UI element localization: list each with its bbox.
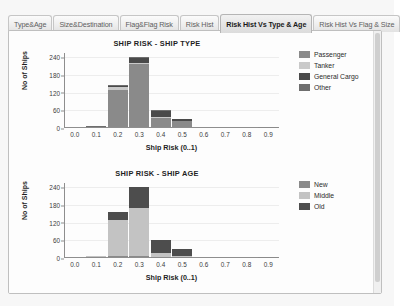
bar-segment-middle — [129, 208, 149, 256]
legend-swatch-icon — [299, 73, 310, 80]
y-tick-mark — [61, 110, 64, 111]
x-axis-tick: 0.7 — [221, 261, 230, 268]
bar-segment-passenger — [108, 90, 128, 127]
y-tick-mark — [61, 128, 64, 129]
y-axis-tick: 0 — [56, 255, 60, 262]
y-axis-tick: 0 — [56, 125, 60, 132]
x-axis-tick: 0.2 — [113, 261, 122, 268]
x-axis-tick: 0.9 — [264, 131, 273, 138]
bar-segment-old — [108, 212, 128, 220]
bar-segment-old — [151, 240, 171, 253]
tab-label: Risk Hist — [186, 20, 213, 29]
legend-label: Tanker — [314, 62, 334, 69]
chart-ship-risk-ship-age: SHIP RISK - SHIP AGE No of Ships 0601201… — [9, 163, 375, 291]
y-axis-tick: 180 — [49, 202, 60, 209]
x-axis-tick: 0.9 — [264, 261, 273, 268]
gridline — [65, 93, 279, 94]
x-axis-tick: 0.0 — [70, 131, 79, 138]
x-axis-tick: 0.7 — [221, 131, 230, 138]
legend-swatch-icon — [299, 84, 310, 91]
x-axis-label: Ship Risk (0..1) — [64, 143, 279, 152]
x-axis-tick: 0.8 — [242, 131, 251, 138]
x-axis-tick: 0.1 — [92, 131, 101, 138]
legend-item-general-cargo[interactable]: General Cargo — [299, 73, 359, 80]
tab-label: Flag&Flag Risk — [126, 20, 173, 29]
tab-risk-hist-vs-type-age[interactable]: Risk Hist Vs Type & Age — [220, 14, 312, 33]
y-axis-line — [64, 183, 65, 258]
plot-area: 0601201802400.00.10.20.30.40.50.60.70.80… — [64, 183, 279, 258]
legend-label: General Cargo — [314, 73, 359, 80]
bar-0.2 — [108, 212, 128, 257]
chart-legend: PassengerTankerGeneral CargoOther — [299, 51, 359, 95]
bar-0.4 — [151, 240, 171, 257]
tab-bar: Type&AgeSize&DestinationFlag&Flag RiskRi… — [8, 14, 390, 31]
bar-segment-new — [129, 256, 149, 257]
x-axis-label: Ship Risk (0..1) — [64, 273, 279, 282]
y-tick-mark — [61, 205, 64, 206]
x-axis-tick: 0.6 — [199, 131, 208, 138]
legend-swatch-icon — [299, 192, 310, 199]
tab-label: Risk Hist Vs Flag & Size — [319, 20, 394, 29]
legend-item-new[interactable]: New — [299, 181, 334, 188]
legend-item-tanker[interactable]: Tanker — [299, 62, 359, 69]
legend-label: Other — [314, 84, 331, 91]
tab-label: Type&Age — [14, 20, 46, 29]
scrollbar-thumb[interactable] — [375, 33, 380, 282]
legend-label: New — [314, 181, 328, 188]
y-axis-label: No of Ships — [21, 181, 28, 220]
y-tick-mark — [61, 93, 64, 94]
legend-item-old[interactable]: Old — [299, 203, 334, 210]
x-axis-tick: 0.4 — [156, 261, 165, 268]
gridline — [65, 187, 279, 188]
bar-segment-passenger — [172, 121, 192, 127]
gridline — [65, 57, 279, 58]
y-tick-mark — [61, 223, 64, 224]
bar-0.5 — [172, 118, 192, 127]
bar-0.4 — [151, 110, 171, 127]
legend-swatch-icon — [299, 62, 310, 69]
legend-item-other[interactable]: Other — [299, 84, 359, 91]
tab-label: Risk Hist Vs Type & Age — [226, 20, 306, 29]
gridline — [65, 240, 279, 241]
bar-segment-passenger — [151, 118, 171, 127]
y-tick-mark — [61, 57, 64, 58]
x-axis-tick: 0.2 — [113, 131, 122, 138]
y-tick-mark — [61, 187, 64, 188]
x-axis-tick: 0.3 — [135, 261, 144, 268]
y-axis-tick: 60 — [53, 107, 60, 114]
legend-item-middle[interactable]: Middle — [299, 192, 334, 199]
legend-swatch-icon — [299, 181, 310, 188]
chart-title: SHIP RISK - SHIP TYPE — [9, 39, 375, 48]
bar-0.5 — [172, 248, 192, 257]
bar-0.1 — [86, 126, 106, 127]
y-axis-tick: 240 — [49, 54, 60, 61]
x-axis-line — [64, 127, 279, 128]
bar-0.2 — [108, 85, 128, 127]
legend-item-passenger[interactable]: Passenger — [299, 51, 359, 58]
x-axis-tick: 0.3 — [135, 131, 144, 138]
gridline — [65, 223, 279, 224]
legend-label: Old — [314, 203, 325, 210]
gridline — [65, 75, 279, 76]
vertical-scrollbar[interactable] — [373, 31, 381, 293]
x-axis-tick: 0.5 — [178, 131, 187, 138]
legend-label: Passenger — [314, 51, 347, 58]
bar-0.3 — [129, 187, 149, 257]
x-axis-tick: 0.0 — [70, 261, 79, 268]
x-axis-tick: 0.6 — [199, 261, 208, 268]
y-axis-tick: 120 — [49, 219, 60, 226]
legend-swatch-icon — [299, 203, 310, 210]
chart-title: SHIP RISK - SHIP AGE — [9, 169, 375, 178]
chart-ship-risk-ship-type: SHIP RISK - SHIP TYPE No of Ships 060120… — [9, 33, 375, 161]
y-axis-tick: 120 — [49, 89, 60, 96]
y-tick-mark — [61, 240, 64, 241]
bar-segment-new — [108, 256, 128, 257]
legend-label: Middle — [314, 192, 334, 199]
plot-area: 0601201802400.00.10.20.30.40.50.60.70.80… — [64, 53, 279, 128]
bar-segment-old — [129, 187, 149, 208]
y-tick-mark — [61, 258, 64, 259]
chart-legend: NewMiddleOld — [299, 181, 334, 214]
charts-container: SHIP RISK - SHIP TYPE No of Ships 060120… — [9, 31, 381, 293]
bar-segment-passenger — [129, 64, 149, 127]
